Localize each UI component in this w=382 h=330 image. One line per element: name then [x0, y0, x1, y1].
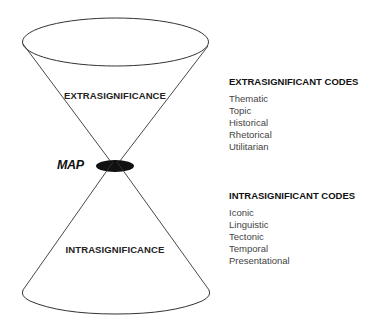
upper-cone-right-edge	[113, 46, 208, 170]
list-item: Utilitarian	[229, 141, 358, 153]
list-item: Temporal	[229, 243, 355, 255]
list-item: Tectonic	[229, 231, 355, 243]
list-item: Presentational	[229, 255, 355, 267]
lower-cone-right-edge	[117, 162, 209, 290]
intrasignificance-label: INTRASIGNIFICANCE	[66, 244, 165, 255]
map-label: MAP	[57, 158, 84, 172]
list-item: Iconic	[229, 207, 355, 219]
intrasignificant-codes-list: INTRASIGNIFICANT CODES Iconic Linguistic…	[229, 190, 355, 267]
list-item: Linguistic	[229, 219, 355, 231]
list-item: Historical	[229, 117, 358, 129]
extrasignificance-label: EXTRASIGNIFICANCE	[64, 90, 166, 101]
extrasignificant-codes-heading: EXTRASIGNIFICANT CODES	[229, 76, 358, 87]
list-item: Thematic	[229, 93, 358, 105]
upper-cone-rim	[23, 18, 209, 66]
map-plane	[96, 160, 134, 172]
list-item: Topic	[229, 105, 358, 117]
extrasignificant-codes-list: EXTRASIGNIFICANT CODES Thematic Topic Hi…	[229, 76, 358, 153]
lower-cone-rim	[22, 290, 209, 314]
intrasignificant-codes-heading: INTRASIGNIFICANT CODES	[229, 190, 355, 201]
list-item: Rhetorical	[229, 129, 358, 141]
lower-cone-left-edge	[23, 162, 113, 290]
